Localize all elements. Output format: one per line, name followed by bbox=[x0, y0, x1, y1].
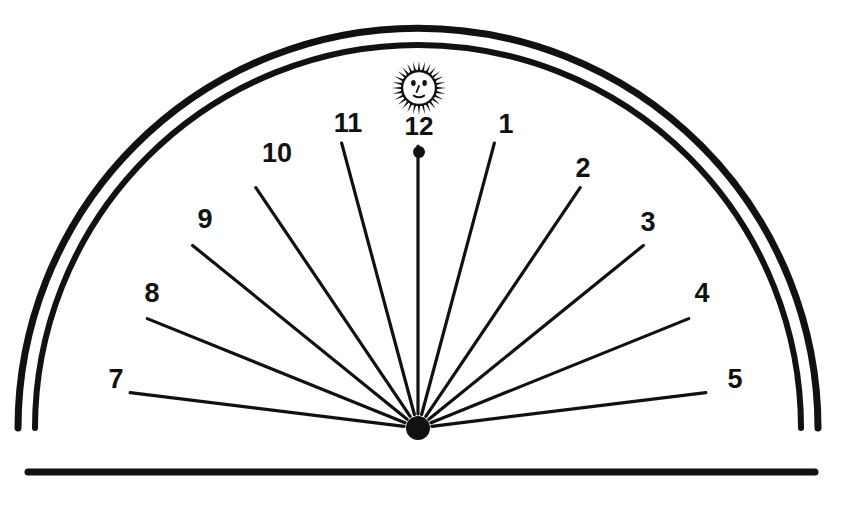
hour-numeral-12: 12 bbox=[405, 111, 434, 141]
hour-line-10 bbox=[256, 188, 410, 417]
hour-numeral-2: 2 bbox=[575, 153, 590, 183]
sun-eye-left bbox=[411, 80, 416, 86]
sun-face-emblem bbox=[392, 61, 446, 115]
hour-numeral-3: 3 bbox=[640, 207, 655, 237]
hour-numeral-10: 10 bbox=[262, 138, 292, 168]
hour-numeral-5: 5 bbox=[727, 364, 742, 394]
sundial-canvas: 12345789101112 bbox=[0, 0, 841, 509]
hour-line-7 bbox=[130, 393, 404, 427]
gnomon-hub bbox=[406, 416, 430, 440]
hour-lines-group bbox=[130, 143, 706, 426]
sundial-diagram: 12345789101112 bbox=[0, 0, 841, 509]
sun-eye-right bbox=[422, 80, 427, 86]
hour-numerals-group: 12345789101112 bbox=[108, 108, 742, 394]
hour-numeral-9: 9 bbox=[197, 204, 212, 234]
hour-numeral-11: 11 bbox=[334, 108, 363, 138]
hour-numeral-8: 8 bbox=[144, 278, 159, 308]
hour-numeral-7: 7 bbox=[108, 364, 123, 394]
hour-line-8 bbox=[147, 319, 405, 423]
noon-dot bbox=[413, 146, 425, 158]
hour-numeral-4: 4 bbox=[694, 278, 709, 308]
hour-line-5 bbox=[432, 393, 706, 427]
sun-ray bbox=[392, 87, 402, 89]
sun-ray bbox=[418, 61, 420, 71]
hour-line-2 bbox=[426, 188, 580, 417]
hour-numeral-1: 1 bbox=[498, 109, 513, 139]
sun-ray bbox=[436, 87, 446, 89]
hour-line-4 bbox=[431, 319, 689, 423]
